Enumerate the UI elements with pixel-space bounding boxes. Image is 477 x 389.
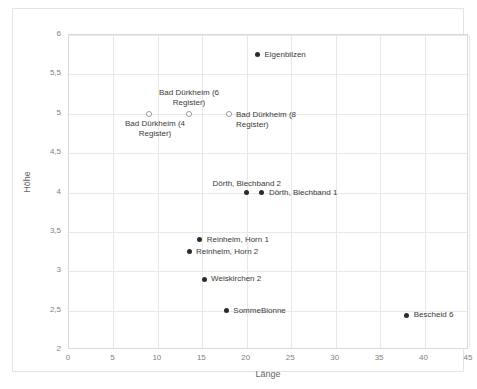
x-tick-label: 35 <box>359 353 399 362</box>
gridline-vertical <box>425 35 426 348</box>
y-tick-label: 2 <box>21 344 61 353</box>
gridline-horizontal <box>69 74 467 75</box>
scatter-point[interactable] <box>146 111 152 117</box>
gridline-horizontal <box>69 232 467 233</box>
point-label: Weiskirchen 2 <box>211 274 261 284</box>
gridline-vertical <box>202 35 203 348</box>
scatter-point[interactable] <box>202 277 207 282</box>
point-label: Eigenbilzen <box>264 50 305 60</box>
y-tick-label: 6 <box>21 29 61 38</box>
scatter-point[interactable] <box>255 52 260 57</box>
y-tick-label: 5,5 <box>21 68 61 77</box>
x-tick-label: 5 <box>92 353 132 362</box>
scatter-point[interactable] <box>259 190 264 195</box>
point-label: Reinheim, Horn 1 <box>207 235 269 245</box>
x-axis-title: Länge <box>68 369 468 379</box>
point-label: Bad Dürkheim (8 Register) <box>236 110 296 130</box>
gridline-vertical <box>113 35 114 348</box>
y-tick-label: 3 <box>21 265 61 274</box>
point-label: Bad Dürkheim (6 Register) <box>139 88 239 108</box>
x-tick-label: 45 <box>448 353 477 362</box>
y-tick-label: 2,5 <box>21 305 61 314</box>
point-label: Bescheid 6 <box>414 310 454 320</box>
y-tick-label: 3,5 <box>21 226 61 235</box>
y-tick-label: 4 <box>21 187 61 196</box>
y-tick-label: 4,5 <box>21 147 61 156</box>
point-label: Bad Dürkheim (4 Register) <box>105 119 205 139</box>
gridline-horizontal <box>69 153 467 154</box>
scatter-point[interactable] <box>404 313 409 318</box>
x-tick-label: 40 <box>404 353 444 362</box>
point-label: SommeBionne <box>233 306 285 316</box>
point-label: Reinheim, Horn 2 <box>196 247 258 257</box>
x-tick-label: 0 <box>48 353 88 362</box>
gridline-vertical <box>380 35 381 348</box>
scatter-point[interactable] <box>186 111 192 117</box>
x-tick-label: 25 <box>270 353 310 362</box>
scatter-point[interactable] <box>244 190 249 195</box>
x-tick-label: 10 <box>137 353 177 362</box>
chart-frame: Höhe Länge 22,533,544,555,56 05101520253… <box>12 8 464 372</box>
gridline-horizontal <box>69 271 467 272</box>
y-axis-title: Höhe <box>22 152 32 212</box>
x-tick-label: 20 <box>226 353 266 362</box>
x-tick-label: 30 <box>315 353 355 362</box>
gridline-horizontal <box>69 35 467 36</box>
scatter-point[interactable] <box>224 308 229 313</box>
scatter-point[interactable] <box>187 249 192 254</box>
point-label: Dörth, Blechband 1 <box>269 188 338 198</box>
plot-area: EigenbilzenBad Dürkheim (4 Register)Bad … <box>68 34 468 349</box>
gridline-vertical <box>158 35 159 348</box>
y-tick-label: 5 <box>21 108 61 117</box>
gridline-vertical <box>469 35 470 348</box>
scatter-point[interactable] <box>226 111 232 117</box>
x-tick-label: 15 <box>181 353 221 362</box>
